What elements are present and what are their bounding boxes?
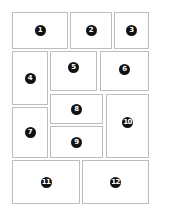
- panel-9: 9: [50, 126, 103, 158]
- panel-3: 3: [114, 12, 149, 49]
- panel-number-badge: 12: [110, 177, 121, 188]
- panel-2: 2: [70, 12, 112, 49]
- panel-number-badge: 11: [41, 177, 52, 188]
- panel-number-badge: 7: [25, 127, 36, 138]
- panel-11: 11: [12, 160, 80, 204]
- panel-number-badge: 1: [35, 25, 46, 36]
- panel-number-badge: 2: [86, 25, 97, 36]
- panel-number-badge: 3: [126, 25, 137, 36]
- panel-5: 5: [50, 51, 97, 91]
- panel-number-badge: 10: [122, 117, 133, 128]
- panel-7: 7: [12, 107, 48, 158]
- panel-12: 12: [82, 160, 149, 204]
- panel-number-badge: 6: [119, 64, 130, 75]
- panel-6: 6: [100, 51, 149, 91]
- panel-number-badge: 5: [68, 62, 79, 73]
- panel-number-badge: 8: [71, 104, 82, 115]
- panel-8: 8: [50, 94, 103, 124]
- panel-number-badge: 9: [71, 137, 82, 148]
- panel-10: 10: [106, 94, 149, 158]
- panel-number-badge: 4: [25, 73, 36, 84]
- panel-4: 4: [12, 51, 48, 105]
- panel-1: 1: [12, 12, 68, 49]
